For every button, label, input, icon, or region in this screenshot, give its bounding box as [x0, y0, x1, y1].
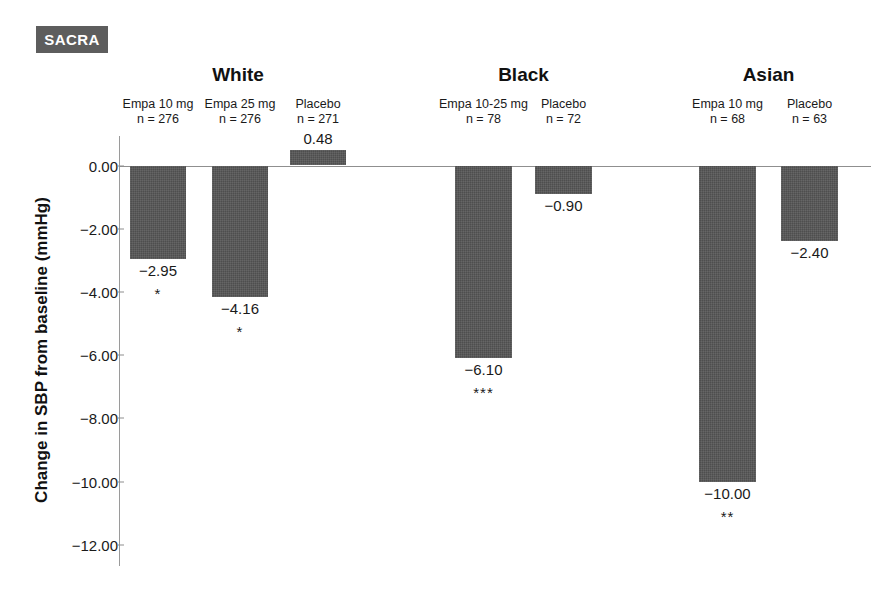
bar	[290, 150, 346, 165]
series-n-label: n = 276	[205, 112, 276, 127]
y-tick-mark	[118, 481, 124, 482]
series-n-label: n = 276	[123, 112, 194, 127]
series-header: Empa 25 mgn = 276	[205, 97, 276, 127]
chart-container: SACRA Change in SBP from baseline (mmHg)…	[0, 0, 877, 599]
bar-value-label: 0.48	[303, 130, 332, 147]
significance-marker: **	[721, 508, 735, 525]
series-header: Placebon = 63	[787, 97, 832, 127]
series-arm-label: Empa 10-25 mg	[439, 97, 528, 112]
series-arm-label: Placebo	[541, 97, 586, 112]
series-n-label: n = 72	[541, 112, 586, 127]
y-tick-label: −10.00	[48, 473, 118, 490]
series-header: Empa 10 mgn = 68	[692, 97, 763, 127]
y-tick-mark	[118, 355, 124, 356]
bar-value-label: −4.16	[221, 300, 259, 317]
y-tick-label: −12.00	[48, 536, 118, 553]
y-tick-label: −8.00	[48, 410, 118, 427]
bar-value-label: −6.10	[465, 361, 503, 378]
bar	[455, 166, 512, 359]
bar-value-label: −10.00	[704, 485, 750, 502]
series-arm-label: Empa 10 mg	[692, 97, 763, 112]
series-n-label: n = 63	[787, 112, 832, 127]
y-tick-mark	[118, 418, 124, 419]
series-header: Placebon = 271	[295, 97, 340, 127]
significance-marker: *	[155, 285, 162, 302]
series-n-label: n = 271	[295, 112, 340, 127]
bar-value-label: −2.40	[791, 244, 829, 261]
group-title-asian: Asian	[743, 64, 795, 86]
series-header: Placebon = 72	[541, 97, 586, 127]
bar	[212, 166, 268, 297]
group-title-white: White	[212, 64, 264, 86]
bar-value-label: −0.90	[545, 197, 583, 214]
y-axis-line	[119, 136, 120, 566]
series-arm-label: Placebo	[295, 97, 340, 112]
bar	[699, 166, 756, 482]
bar-value-label: −2.95	[139, 262, 177, 279]
y-tick-mark	[118, 228, 124, 229]
y-tick-mark	[118, 165, 124, 166]
series-arm-label: Empa 10 mg	[123, 97, 194, 112]
y-axis-ticks: 0.00−2.00−4.00−6.00−8.00−10.00−12.00	[46, 0, 118, 599]
bar	[535, 166, 592, 194]
y-tick-mark	[118, 544, 124, 545]
group-title-black: Black	[498, 64, 549, 86]
series-header: Empa 10-25 mgn = 78	[439, 97, 528, 127]
y-tick-label: −2.00	[48, 220, 118, 237]
series-arm-label: Placebo	[787, 97, 832, 112]
y-tick-mark	[118, 291, 124, 292]
y-tick-label: −6.00	[48, 347, 118, 364]
bar	[130, 166, 186, 259]
significance-marker: *	[237, 323, 244, 340]
series-arm-label: Empa 25 mg	[205, 97, 276, 112]
series-n-label: n = 68	[692, 112, 763, 127]
series-header: Empa 10 mgn = 276	[123, 97, 194, 127]
significance-marker: ***	[473, 384, 494, 401]
y-tick-label: −4.00	[48, 283, 118, 300]
bar	[781, 166, 838, 242]
series-n-label: n = 78	[439, 112, 528, 127]
y-tick-label: 0.00	[48, 157, 118, 174]
